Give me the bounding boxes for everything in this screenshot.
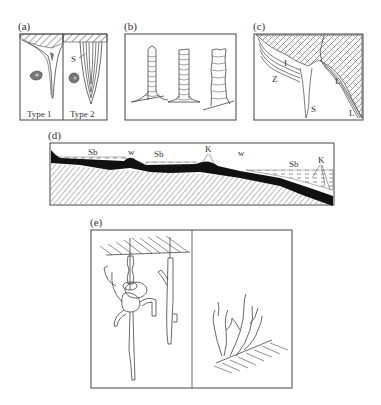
label-i: I <box>284 58 287 68</box>
label-sb2: Sb <box>154 149 164 159</box>
label-type2: Type 2 <box>70 109 95 119</box>
label-sb3: Sb <box>289 159 299 169</box>
label-sb1: Sb <box>88 147 98 157</box>
label-z: Z <box>272 74 278 84</box>
label-l2: L <box>349 108 355 118</box>
panel-c: I Z S L L <box>254 34 363 120</box>
label-w1: w <box>128 147 135 157</box>
label-k2: K <box>318 155 325 165</box>
label-s-c: S <box>311 104 316 114</box>
label-l1: L <box>335 76 341 86</box>
panel-b <box>125 34 236 120</box>
label-s-a: S <box>71 54 76 64</box>
panel-d: Sb w Sb K w Sb K <box>50 143 334 206</box>
panel-a: S Type 1 Type 2 <box>20 34 107 120</box>
label-w2: w <box>238 148 245 158</box>
label-type1: Type 1 <box>27 109 52 119</box>
panel-e <box>91 230 292 388</box>
diagram-canvas: S Type 1 Type 2 <box>0 0 381 405</box>
label-k1: K <box>205 144 212 154</box>
